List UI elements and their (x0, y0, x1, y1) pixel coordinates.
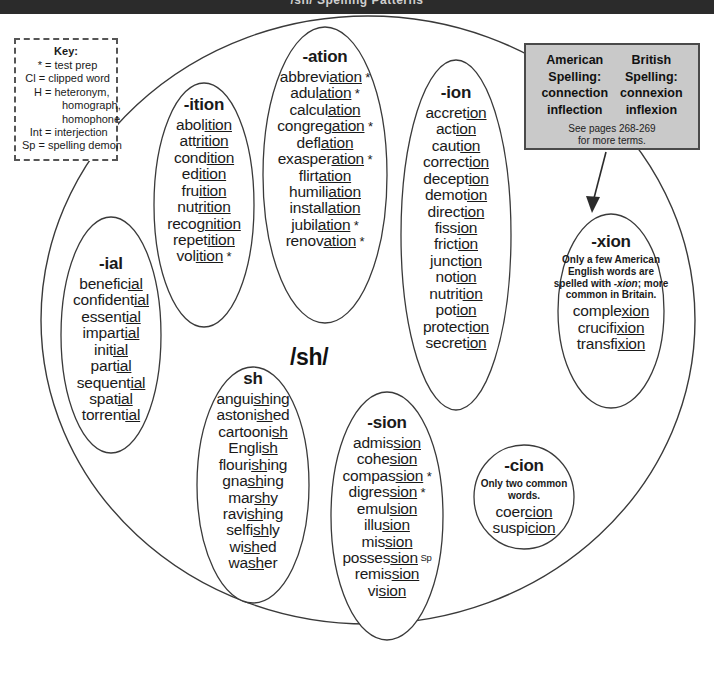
group-header-cion: -cion (469, 457, 579, 475)
word-item: transfixion (551, 336, 671, 352)
word-item: cohesion (322, 451, 452, 467)
word-item: calculation (253, 102, 397, 118)
word-item: secretion (396, 335, 516, 351)
key-box: Key: * = test prep Cl = clipped word H =… (14, 38, 118, 161)
word-item: recognition (144, 216, 264, 232)
word-item: selfishly (193, 522, 313, 538)
diagram-page: /sh/ Spelling Patterns Key: * = test pre… (0, 0, 714, 686)
american-word-inflection: inflection (541, 102, 608, 119)
key-cont-homograph: homograph, (22, 99, 110, 112)
word-item: admission (322, 435, 452, 451)
word-item: attrition (144, 133, 264, 149)
word-item: action (396, 121, 516, 137)
word-item: emulsion (322, 501, 452, 517)
group-note-xion: Only a few American English words are sp… (551, 254, 671, 301)
word-item: caution (396, 138, 516, 154)
word-item: renovation * (253, 233, 397, 249)
word-item: condition (144, 150, 264, 166)
word-item: torrential (44, 407, 178, 423)
key-symbol: H (22, 86, 42, 99)
group-ion: -ionaccretionactioncautioncorrectiondece… (396, 84, 516, 351)
american-spelling-column: American Spelling: connection inflection (541, 52, 608, 118)
phoneme-label: /sh/ (290, 344, 328, 371)
key-title: Key: (22, 45, 110, 57)
word-item: marshy (193, 490, 313, 506)
word-item: digression * (322, 484, 452, 500)
word-item: coercion (469, 504, 579, 520)
word-item: mission (322, 534, 452, 550)
word-item: flourishing (193, 457, 313, 473)
key-desc: = test prep (45, 59, 97, 72)
group-sion: -sionadmissioncohesioncompassion *digres… (322, 414, 452, 599)
word-item: remission (322, 566, 452, 582)
group-header-xion: -xion (551, 233, 671, 251)
key-row-clipped-word: Cl = clipped word (22, 72, 110, 85)
word-item: sequential (44, 375, 178, 391)
british-word-inflexion: inflexion (620, 102, 683, 119)
word-item: notion (396, 269, 516, 285)
word-item: potion (396, 302, 516, 318)
word-item: English (193, 440, 313, 456)
spelling-columns: American Spelling: connection inflection… (532, 52, 692, 118)
word-item: impartial (44, 325, 178, 341)
word-item: cartoonish (193, 424, 313, 440)
word-item: repetition (144, 232, 264, 248)
see-pages-line2: for more terms. (532, 135, 692, 147)
word-item: jubilation * (253, 217, 397, 233)
word-item: installation (253, 200, 397, 216)
word-item: demotion (396, 187, 516, 203)
word-item: flirtation (253, 168, 397, 184)
british-title-line1: British (620, 52, 683, 69)
word-item: gnashing (193, 473, 313, 489)
word-item: partial (44, 358, 178, 374)
word-item: abbreviation * (253, 69, 397, 85)
american-word-connection: connection (541, 85, 608, 102)
group-ition: -itionabolitionattritionconditionedition… (144, 96, 264, 265)
word-item: crucifixion (551, 320, 671, 336)
word-item: abolition (144, 117, 264, 133)
word-item: nutrition (144, 199, 264, 215)
word-item: deception (396, 171, 516, 187)
word-item: congregation * (253, 118, 397, 134)
key-symbol: Cl (22, 72, 36, 85)
word-item: confidential (44, 292, 178, 308)
word-item: complexion (551, 303, 671, 319)
word-item: edition (144, 166, 264, 182)
group-header-ion: -ion (396, 84, 516, 102)
word-item: vision (322, 583, 452, 599)
key-symbol: * (22, 59, 42, 72)
see-pages-line1: See pages 268-269 (532, 123, 692, 135)
word-item: essential (44, 309, 178, 325)
word-item: fission (396, 220, 516, 236)
word-item: illusion (322, 517, 452, 533)
word-item: fruition (144, 183, 264, 199)
key-desc: = clipped word (39, 72, 110, 85)
group-xion: -xionOnly a few American English words a… (551, 233, 671, 352)
american-title-line2: Spelling: (541, 69, 608, 86)
word-item: ravishing (193, 506, 313, 522)
key-desc: = spelling demon (38, 139, 121, 152)
word-item: deflation (253, 135, 397, 151)
word-item: humiliation (253, 184, 397, 200)
word-item: suspicion (469, 520, 579, 536)
word-item: junction (396, 253, 516, 269)
group-ial: -ialbeneficialconfidentialessentialimpar… (44, 255, 178, 424)
word-item: adulation * (253, 85, 397, 101)
group-header-ial: -ial (44, 255, 178, 273)
key-desc: = heteronym, (45, 86, 110, 99)
key-row-test-prep: * = test prep (22, 59, 110, 72)
word-item: correction (396, 154, 516, 170)
group-cion: -cionOnly two common words.coercionsuspi… (469, 457, 579, 536)
group-note-cion: Only two common words. (469, 478, 579, 502)
word-item: nutrition (396, 286, 516, 302)
see-pages-note: See pages 268-269 for more terms. (532, 123, 692, 147)
word-item: beneficial (44, 276, 178, 292)
key-row-heteronym: H = heteronym, (22, 86, 110, 99)
word-item: astonished (193, 407, 313, 423)
word-item: initial (44, 342, 178, 358)
word-item: possession Sp (322, 550, 452, 566)
word-item: washer (193, 555, 313, 571)
word-item: compassion * (322, 468, 452, 484)
word-item: friction (396, 236, 516, 252)
word-item: anguishing (193, 391, 313, 407)
